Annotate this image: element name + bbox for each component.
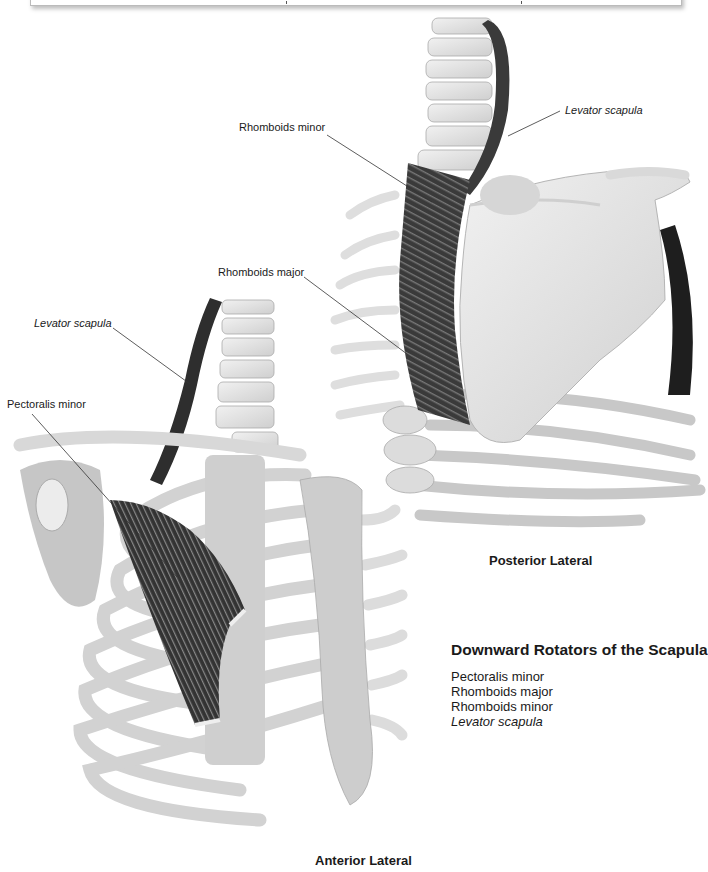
legend-item: Levator scapula: [451, 714, 708, 729]
shoulder-scapula-anterior: [20, 460, 104, 607]
leader-levator-scapula-anterior: [113, 328, 190, 384]
ribs-posterior-left-stubs: [335, 195, 400, 415]
label-pectoralis-minor: Pectoralis minor: [7, 398, 86, 410]
legend-item: Pectoralis minor: [451, 669, 708, 684]
sternum: [300, 477, 373, 805]
anterior-lateral-view: [20, 298, 402, 820]
legend-item: Rhomboids minor: [451, 699, 708, 714]
humeral-head-anterior: [36, 479, 68, 531]
legend-title: Downward Rotators of the Scapula: [451, 641, 708, 659]
legend-panel: Downward Rotators of the Scapula Pectora…: [451, 641, 708, 729]
label-levator-scapula-posterior: Levator scapula: [565, 104, 643, 116]
title-posterior-lateral: Posterior Lateral: [489, 553, 592, 568]
title-anterior-lateral: Anterior Lateral: [315, 853, 412, 868]
thoracic-spine-posterior: [383, 406, 436, 493]
legend-list: Pectoralis minor Rhomboids major Rhomboi…: [451, 669, 708, 729]
rhomboids-muscle: [399, 163, 470, 425]
cervical-spine-posterior: [418, 18, 492, 170]
posterior-lateral-view: [335, 18, 700, 522]
serratus-shape: [660, 225, 693, 395]
cervical-spine-anterior: [216, 300, 278, 452]
humeral-head: [480, 175, 540, 215]
clavicle-posterior: [610, 172, 685, 176]
label-rhomboids-major: Rhomboids major: [218, 266, 304, 278]
legend-item: Rhomboids major: [451, 684, 708, 699]
label-levator-scapula-anterior: Levator scapula: [34, 317, 112, 329]
leader-levator-scapula-posterior: [508, 111, 560, 136]
label-rhomboids-minor: Rhomboids minor: [239, 121, 325, 133]
